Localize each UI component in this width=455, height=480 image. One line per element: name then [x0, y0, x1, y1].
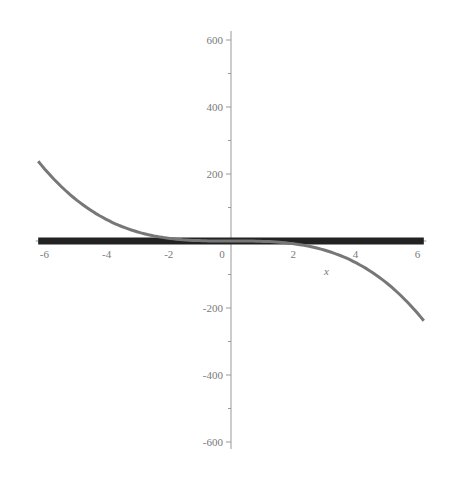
chart-plot: 600400200-200-400-600 -6-4-20246 x: [0, 0, 455, 480]
x-tick-label: -2: [164, 248, 173, 260]
y-tick-label: -600: [203, 436, 224, 448]
y-tick-label: -400: [203, 369, 224, 381]
x-tick-label: -6: [40, 248, 50, 260]
x-tick-label: 4: [353, 248, 359, 260]
x-tick-label: 6: [415, 248, 421, 260]
x-tick-label: -4: [102, 248, 112, 260]
y-tick-label: 600: [207, 34, 224, 46]
y-tick-label: 400: [207, 101, 224, 113]
x-tick-label: 2: [290, 248, 296, 260]
x-axis-label: x: [323, 265, 329, 277]
y-tick-label: -200: [203, 302, 224, 314]
y-tick-label: 200: [207, 168, 224, 180]
x-tick-label: 0: [219, 248, 225, 260]
